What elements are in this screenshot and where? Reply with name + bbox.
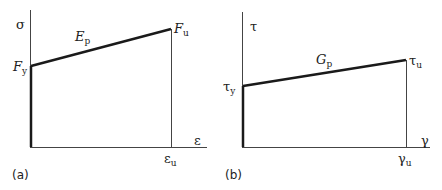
panel-a-ultimate-label: Fu (174, 22, 189, 38)
diagram-canvas (0, 0, 442, 190)
panel-b-x-ultimate-label: γu (398, 152, 412, 168)
panel-a-y-axis-label: σ (16, 18, 25, 31)
panel-b-yield-label: τy (223, 80, 235, 96)
panel-b-y-axis-label: τ (250, 20, 257, 33)
panel-a-slope-label: Ep (75, 30, 90, 46)
panel-a-x-axis-label: ε (194, 134, 201, 147)
panel-a-plastic-line (31, 29, 171, 66)
panel-b-x-axis-label: γ (421, 134, 429, 147)
panel-a-yield-label: Fy (13, 60, 27, 76)
panel-b-ultimate-label: τu (409, 54, 422, 70)
panel-b-graph (242, 12, 430, 148)
panel-a-caption: (a) (12, 168, 29, 182)
panel-a-x-ultimate-label: εu (164, 152, 177, 168)
panel-b-slope-label: Gp (316, 53, 332, 69)
panel-b-caption: (b) (225, 168, 242, 182)
